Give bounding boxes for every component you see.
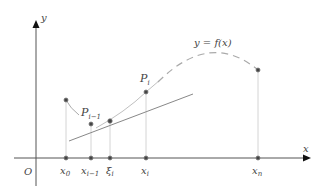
tick-x0	[64, 156, 68, 160]
point-p-im1	[89, 122, 93, 126]
tick-xi-greek	[108, 156, 112, 160]
curve-dashed	[158, 53, 258, 82]
label-p-i: Pi	[139, 72, 150, 87]
curve-segment-mid	[96, 80, 160, 128]
tick-xim1	[89, 156, 93, 160]
curve-segment-start	[66, 100, 79, 115]
y-axis-label: y	[40, 12, 47, 23]
point-xi	[108, 119, 112, 123]
point-p-i	[144, 90, 148, 94]
tick-label-x0: x0	[60, 165, 71, 178]
origin-label: O	[24, 166, 32, 177]
tick-xi	[144, 156, 148, 160]
curve-label: y = f(x)	[193, 37, 232, 48]
label-p-im1: Pi−1	[80, 106, 101, 121]
diagram-canvas: y x O y = f(x) Pi−1 Pi x0 xi−1 ξi xi xn	[0, 0, 320, 186]
tick-label-xn: xn	[252, 165, 263, 178]
tick-label-xim1: xi−1	[81, 165, 99, 178]
point-p0	[64, 98, 68, 102]
point-p-n	[256, 68, 260, 72]
x-axis-arrow-icon	[303, 155, 311, 162]
tick-label-xi: xi	[141, 165, 149, 178]
tick-label-xi-greek: ξi	[106, 165, 114, 178]
x-axis-label: x	[303, 143, 309, 154]
tick-xn	[256, 156, 260, 160]
y-axis-arrow-icon	[33, 20, 40, 28]
